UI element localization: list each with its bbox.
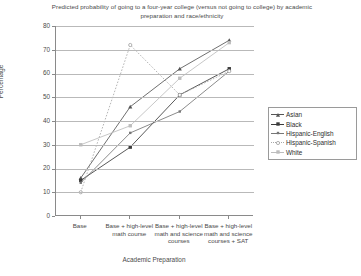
legend-swatch-icon [271, 129, 284, 138]
legend-marker-icon [274, 129, 282, 137]
data-point [179, 110, 181, 112]
legend-item-asian[interactable]: Asian [271, 110, 354, 119]
data-point [129, 124, 132, 127]
x-tick-mark [129, 216, 130, 219]
legend-marker-icon [274, 148, 282, 156]
series-asian [79, 38, 232, 180]
legend-item-hispanic-english[interactable]: Hispanic-English [271, 129, 354, 138]
plot-area [55, 26, 253, 216]
y-tick-mark [52, 145, 55, 146]
y-tick-label: 40 [28, 118, 50, 124]
series-line [81, 40, 230, 178]
x-axis-label: Academic Preparation [55, 256, 253, 263]
gridline [56, 26, 254, 27]
chart-container: Predicted probability of going to a four… [0, 0, 361, 276]
data-point [178, 67, 182, 71]
y-tick-mark [52, 192, 55, 193]
legend-label: Hispanic-English [286, 129, 334, 138]
data-point [178, 93, 181, 96]
legend-label: Hispanic-Spanish [286, 138, 336, 147]
y-tick-mark [52, 26, 55, 27]
chart-title: Predicted probability of going to a four… [38, 3, 326, 20]
y-tick-label: 30 [28, 142, 50, 148]
legend-item-white[interactable]: White [271, 148, 354, 157]
y-tick-mark [52, 74, 55, 75]
gridline [56, 192, 254, 193]
series-line [81, 45, 230, 192]
y-tick-label: 0 [28, 213, 50, 219]
y-tick-label: 80 [28, 23, 50, 29]
gridline [56, 121, 254, 122]
y-tick-mark [52, 97, 55, 98]
y-tick-mark [52, 50, 55, 51]
y-tick-label: 70 [28, 47, 50, 53]
legend-swatch-icon [271, 110, 284, 119]
legend-swatch-icon [271, 138, 284, 147]
data-point [178, 77, 181, 80]
legend-label: Black [286, 120, 302, 129]
legend-swatch-icon [271, 120, 284, 129]
legend-item-hispanic-spanish[interactable]: Hispanic-Spanish [271, 138, 354, 147]
data-point [228, 41, 231, 44]
data-point [129, 145, 132, 148]
y-tick-label: 50 [28, 94, 50, 100]
legend-label: Asian [286, 110, 302, 119]
y-tick-label: 10 [28, 189, 50, 195]
legend-marker-icon [274, 111, 282, 119]
data-point [129, 43, 132, 46]
gridline [56, 74, 254, 75]
gridline [56, 97, 254, 98]
legend-marker-icon [274, 120, 282, 128]
y-tick-mark [52, 216, 55, 217]
legend-marker-icon [274, 139, 282, 147]
data-point [228, 70, 231, 73]
gridline [56, 145, 254, 146]
y-tick-mark [52, 169, 55, 170]
legend-swatch-icon [271, 148, 284, 157]
series-line [81, 43, 230, 145]
y-tick-mark [52, 121, 55, 122]
series-hispanic-spanish [79, 43, 231, 193]
x-tick-mark [179, 216, 180, 219]
series-hispanic-english [80, 70, 231, 184]
series-line [81, 69, 230, 181]
gridline [56, 50, 254, 51]
legend-item-black[interactable]: Black [271, 119, 354, 128]
y-axis-label: Percentage [0, 65, 4, 99]
y-tick-label: 60 [28, 70, 50, 76]
gridline [56, 169, 254, 170]
data-point [129, 132, 131, 134]
legend-label: White [286, 148, 302, 157]
x-tick-mark [228, 216, 229, 219]
y-tick-label: 20 [28, 165, 50, 171]
x-tick-mark [80, 216, 81, 219]
x-tick-label: Base + high-level math and science cours… [199, 222, 257, 245]
data-point [80, 182, 82, 184]
chart-legend: AsianBlackHispanic-EnglishHispanic-Spani… [268, 107, 357, 160]
series-black [79, 67, 231, 182]
